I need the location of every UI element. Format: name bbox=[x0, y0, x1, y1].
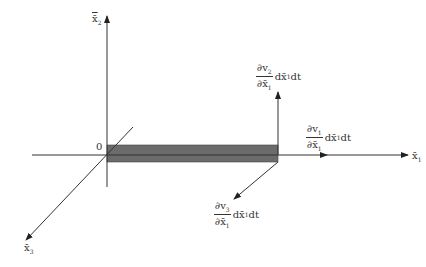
numerator-sub: 3 bbox=[226, 206, 230, 213]
x3-axis-label: x̄3 bbox=[24, 243, 33, 255]
x2-subscript: 2 bbox=[98, 19, 102, 26]
fluid-element-rect bbox=[107, 145, 278, 162]
x1-axis-label: x̄1 bbox=[412, 151, 421, 163]
numerator-sub: 1 bbox=[318, 129, 322, 136]
annotation-dv3-dx1: ∂v3 ∂x̄1 dx̄1dt bbox=[214, 200, 259, 229]
x3-axis bbox=[26, 127, 133, 240]
dt: dt bbox=[249, 209, 259, 220]
denominator-sub: 1 bbox=[318, 145, 322, 152]
x3-subscript: 3 bbox=[30, 248, 34, 255]
x2-axis-label: x̄2 bbox=[92, 14, 101, 26]
denominator: ∂x̄ bbox=[307, 139, 318, 150]
differential: dx̄ bbox=[275, 71, 287, 82]
dt: dt bbox=[291, 71, 301, 82]
differential: dx̄ bbox=[325, 132, 337, 143]
numerator-sub: 2 bbox=[268, 68, 272, 75]
denominator: ∂x̄ bbox=[257, 78, 268, 89]
numerator: ∂v bbox=[215, 200, 226, 211]
annotation-dv2-dx1: ∂v2 ∂x̄1 dx̄1dt bbox=[256, 62, 301, 91]
numerator: ∂v bbox=[257, 62, 268, 73]
dt: dt bbox=[341, 132, 351, 143]
denominator-sub: 1 bbox=[226, 222, 230, 229]
denominator-sub: 1 bbox=[268, 84, 272, 91]
diagram-canvas bbox=[0, 0, 426, 267]
origin-label: 0 bbox=[96, 142, 102, 152]
differential: dx̄ bbox=[233, 209, 245, 220]
v3-displacement-arrow bbox=[234, 162, 278, 199]
x1-subscript: 1 bbox=[418, 156, 422, 163]
annotation-dv1-dx1: ∂v1 ∂x̄1 dx̄1dt bbox=[306, 123, 351, 152]
x1-displacement-arrowhead bbox=[320, 152, 328, 158]
numerator: ∂v bbox=[307, 123, 318, 134]
denominator: ∂x̄ bbox=[215, 216, 226, 227]
